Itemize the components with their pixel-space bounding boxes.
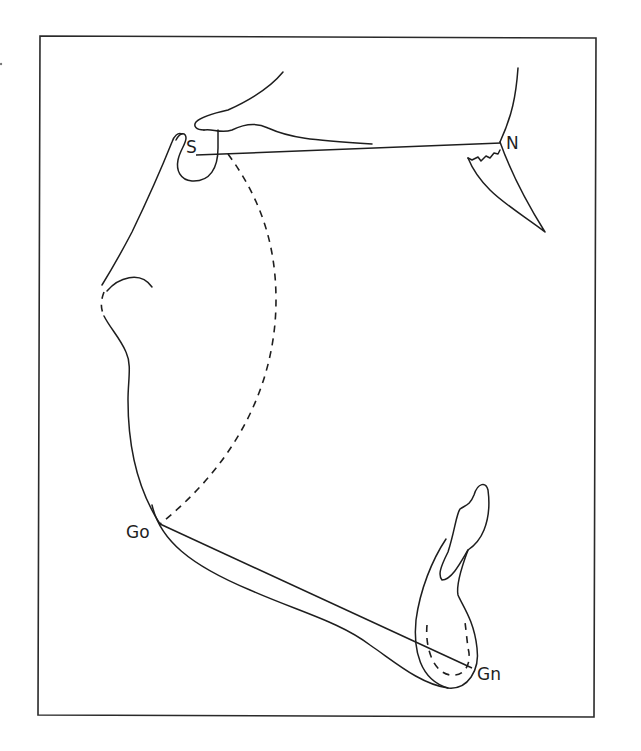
label-gnathion: Gn (477, 664, 501, 684)
label-sella: S (186, 137, 197, 157)
frontal-bone-contour (500, 68, 518, 142)
nasal-bone-contour (468, 142, 545, 232)
cephalometric-figure: S N Go Gn (0, 0, 641, 751)
go-gn-line (160, 524, 472, 668)
anterior-cranial-contour (195, 72, 283, 130)
condyle-arc (107, 277, 152, 291)
label-gonion: Go (126, 522, 150, 542)
condyle-dashed (101, 292, 104, 316)
sn-line (196, 143, 501, 155)
frontonasal-suture (468, 150, 500, 161)
lower-incisor (440, 485, 489, 580)
symphysis-inner-dashed (427, 622, 470, 675)
clivus-contour (102, 133, 182, 285)
label-nasion: N (506, 133, 519, 153)
ramus-dashed-curve (160, 154, 276, 524)
scan-artifact (0, 63, 2, 65)
tracing-canvas: S N Go Gn (0, 0, 641, 751)
ramus-posterior-border (104, 316, 160, 524)
sphenoid-contour (204, 124, 372, 144)
mandible-lower-border (152, 505, 448, 688)
